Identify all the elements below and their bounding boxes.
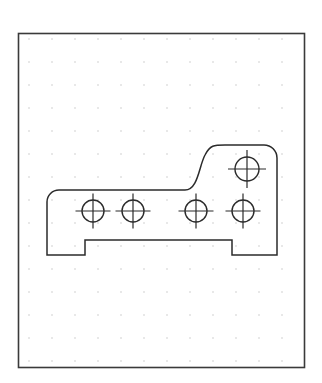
grid-dot <box>28 337 29 338</box>
grid-dot <box>258 314 259 315</box>
grid-dot <box>212 107 213 108</box>
grid-dot <box>166 38 167 39</box>
grid-dot <box>120 107 121 108</box>
grid-dot <box>74 107 75 108</box>
grid-dot <box>51 130 52 131</box>
grid-dot <box>281 176 282 177</box>
grid-dot <box>235 314 236 315</box>
grid-dot <box>166 130 167 131</box>
grid-dot <box>51 314 52 315</box>
grid-dot <box>212 268 213 269</box>
grid-dot <box>258 84 259 85</box>
grid-dot <box>166 222 167 223</box>
grid-dot <box>166 61 167 62</box>
grid-dot <box>212 130 213 131</box>
grid-dot <box>166 84 167 85</box>
grid-dot <box>74 222 75 223</box>
grid-dot <box>74 38 75 39</box>
grid-dot <box>281 222 282 223</box>
grid-dot <box>74 337 75 338</box>
grid-dot <box>143 61 144 62</box>
grid-dot <box>235 107 236 108</box>
grid-dot <box>97 291 98 292</box>
grid-dot <box>235 245 236 246</box>
grid-dot <box>120 291 121 292</box>
grid-dot <box>143 291 144 292</box>
grid-dot <box>28 84 29 85</box>
grid-dot <box>97 245 98 246</box>
grid-dot <box>258 130 259 131</box>
grid-dot <box>74 153 75 154</box>
grid-dot <box>212 153 213 154</box>
grid-dot <box>143 337 144 338</box>
grid-dot <box>28 245 29 246</box>
grid-dot <box>258 61 259 62</box>
grid-dot <box>143 130 144 131</box>
grid-dot <box>212 222 213 223</box>
grid-dot <box>189 130 190 131</box>
grid-dot <box>28 176 29 177</box>
grid-dot <box>97 38 98 39</box>
grid-dot <box>143 314 144 315</box>
grid-dot <box>143 107 144 108</box>
grid-dot <box>74 199 75 200</box>
grid-dot <box>97 222 98 223</box>
grid-dot <box>258 245 259 246</box>
grid-dot <box>97 337 98 338</box>
grid-dot <box>258 153 259 154</box>
grid-dot <box>189 291 190 292</box>
grid-dot <box>120 360 121 361</box>
grid-dot <box>281 38 282 39</box>
grid-dot <box>74 291 75 292</box>
grid-dot <box>120 130 121 131</box>
grid-dot <box>189 176 190 177</box>
grid-dot <box>281 130 282 131</box>
grid-dot <box>97 314 98 315</box>
grid-dot <box>281 84 282 85</box>
grid-dot <box>120 61 121 62</box>
grid-dot <box>97 61 98 62</box>
grid-dot <box>51 176 52 177</box>
grid-dot <box>120 199 121 200</box>
grid-dot <box>281 199 282 200</box>
grid-dot <box>258 176 259 177</box>
grid-dot <box>189 360 190 361</box>
grid-dot <box>120 314 121 315</box>
grid-dot <box>166 337 167 338</box>
grid-dot <box>235 337 236 338</box>
grid-dot <box>235 268 236 269</box>
grid-dot <box>51 153 52 154</box>
grid-dot <box>166 176 167 177</box>
grid-dot <box>235 153 236 154</box>
grid-dot <box>189 84 190 85</box>
grid-dot <box>97 107 98 108</box>
grid-dot <box>28 360 29 361</box>
grid-dot <box>51 61 52 62</box>
grid-dot <box>189 153 190 154</box>
grid-dot <box>258 337 259 338</box>
drawing-canvas[interactable] <box>0 0 322 383</box>
grid-dot <box>235 38 236 39</box>
grid-dot <box>189 268 190 269</box>
grid-dot <box>212 314 213 315</box>
grid-dot <box>74 268 75 269</box>
grid-dot <box>258 38 259 39</box>
grid-dot <box>51 245 52 246</box>
grid-dot <box>212 291 213 292</box>
grid-dot <box>28 38 29 39</box>
grid-dot <box>120 84 121 85</box>
grid-dot <box>212 199 213 200</box>
grid-dot <box>235 291 236 292</box>
grid-dot <box>28 199 29 200</box>
grid-dot <box>28 153 29 154</box>
grid-dot <box>189 61 190 62</box>
grid-dot <box>74 176 75 177</box>
grid-dot <box>51 222 52 223</box>
grid-dot <box>143 360 144 361</box>
grid-dot <box>51 38 52 39</box>
grid-dot <box>212 38 213 39</box>
grid-dot <box>281 107 282 108</box>
grid-dot <box>212 245 213 246</box>
grid-dot <box>51 268 52 269</box>
grid-dot <box>143 176 144 177</box>
